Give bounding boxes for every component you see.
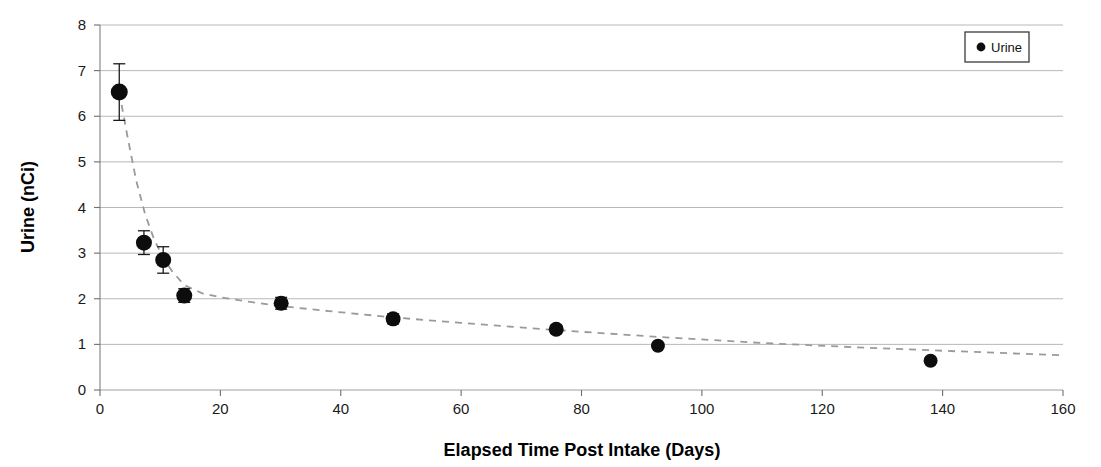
y-tick-label: 3 (78, 244, 86, 261)
y-tick-label: 6 (78, 107, 86, 124)
x-tick-label: 0 (96, 400, 104, 417)
x-tick-label: 40 (332, 400, 349, 417)
y-axis-title: Urine (nCi) (18, 161, 38, 253)
x-axis-title: Elapsed Time Post Intake (Days) (444, 440, 721, 460)
x-tick-label: 20 (212, 400, 229, 417)
y-tick-label: 0 (78, 381, 86, 398)
data-point-marker (549, 322, 564, 337)
data-point-marker (924, 354, 938, 368)
chart-container: 012345678 020406080100120140160 Urine (n… (0, 0, 1101, 467)
y-tick-label: 2 (78, 290, 86, 307)
urine-excretion-scatter-chart: 012345678 020406080100120140160 Urine (n… (0, 0, 1101, 467)
y-tick-label: 1 (78, 335, 86, 352)
data-point-marker (111, 84, 128, 101)
y-tick-label: 7 (78, 62, 86, 79)
legend-label-urine: Urine (991, 40, 1022, 55)
y-axis-tick-labels: 012345678 (78, 16, 86, 398)
x-tick-label: 160 (1050, 400, 1075, 417)
y-tick-label: 8 (78, 16, 86, 33)
data-point-marker (136, 235, 152, 251)
data-point-marker (176, 288, 192, 304)
x-tick-label: 140 (930, 400, 955, 417)
data-point-marker (274, 296, 289, 311)
chart-legend[interactable]: Urine (965, 32, 1029, 62)
legend-marker-urine-icon (977, 43, 986, 52)
data-point-marker (155, 252, 171, 268)
x-tick-label: 100 (689, 400, 714, 417)
data-point-marker (386, 311, 401, 326)
y-tick-label: 5 (78, 153, 86, 170)
x-tick-label: 120 (810, 400, 835, 417)
x-tick-label: 60 (453, 400, 470, 417)
x-tick-label: 80 (573, 400, 590, 417)
y-tick-label: 4 (78, 199, 86, 216)
chart-background (0, 0, 1101, 467)
data-point-marker (651, 339, 665, 353)
